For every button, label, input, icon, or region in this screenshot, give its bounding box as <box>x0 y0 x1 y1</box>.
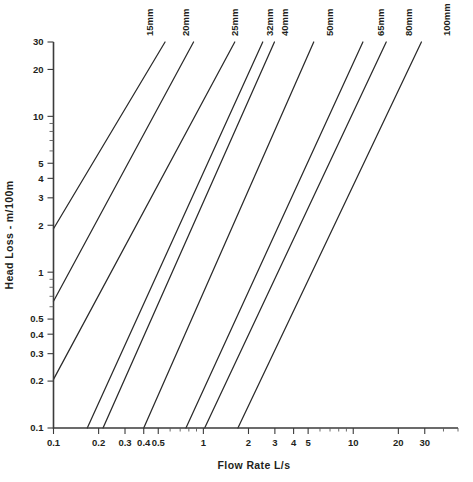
y-tick-label: 2 <box>38 220 43 231</box>
x-tick-label: 30 <box>419 437 430 448</box>
pipe-head-loss-chart: 0.10.20.30.40.512345102030 0.10.20.30.40… <box>0 0 473 482</box>
y-tick-label: 0.3 <box>30 348 43 359</box>
y-tick-label: 3 <box>38 192 43 203</box>
x-axis-ticks-group <box>54 428 459 434</box>
series-line-50mm <box>144 42 314 428</box>
x-tick-label: 0.4 <box>137 437 151 448</box>
x-tick-label: 5 <box>305 437 311 448</box>
y-tick-label: 0.1 <box>30 422 44 433</box>
y-tick-label: 0.5 <box>30 313 44 324</box>
x-tick-label: 10 <box>348 437 359 448</box>
series-lines-group <box>54 42 422 428</box>
y-axis-ticks-group <box>48 42 54 428</box>
x-tick-label: 0.3 <box>118 437 131 448</box>
x-tick-label: 20 <box>393 437 404 448</box>
x-tick-label: 0.1 <box>47 437 61 448</box>
y-axis-title: Head Loss - m/100m <box>3 181 15 290</box>
series-label-65mm: 65mm <box>375 9 386 36</box>
y-tick-label: 30 <box>33 36 44 47</box>
y-tick-label: 20 <box>33 64 44 75</box>
x-axis-tick-labels-group: 0.10.20.30.40.512345102030 <box>47 437 430 448</box>
series-label-25mm: 25mm <box>229 9 240 36</box>
series-label-40mm: 40mm <box>279 9 290 36</box>
series-line-65mm <box>186 42 363 428</box>
x-axis-title: Flow Rate L/s <box>218 459 291 471</box>
x-tick-label: 0.5 <box>152 437 166 448</box>
y-tick-label: 10 <box>33 111 44 122</box>
series-label-100mm: 100mm <box>441 3 452 36</box>
y-tick-label: 4 <box>38 173 44 184</box>
series-line-20mm <box>54 42 194 301</box>
series-label-15mm: 15mm <box>144 9 155 36</box>
y-tick-label: 0.4 <box>30 329 44 340</box>
y-tick-label: 5 <box>38 158 44 169</box>
y-tick-label: 0.2 <box>30 375 43 386</box>
series-label-80mm: 80mm <box>403 9 414 36</box>
x-tick-label: 3 <box>272 437 277 448</box>
x-tick-label: 1 <box>201 437 207 448</box>
series-label-50mm: 50mm <box>324 9 335 36</box>
series-label-20mm: 20mm <box>180 9 191 36</box>
series-line-15mm <box>54 42 166 229</box>
series-line-32mm <box>87 42 262 428</box>
x-tick-label: 4 <box>291 437 297 448</box>
series-line-80mm <box>205 42 387 428</box>
y-axis-tick-labels-group: 0.10.20.30.40.512345102030 <box>30 36 44 433</box>
x-tick-label: 2 <box>246 437 251 448</box>
series-line-25mm <box>54 42 235 379</box>
chart-svg: 0.10.20.30.40.512345102030 0.10.20.30.40… <box>0 0 473 482</box>
x-tick-label: 0.2 <box>92 437 105 448</box>
series-label-32mm: 32mm <box>264 9 275 36</box>
series-line-40mm <box>103 42 274 428</box>
series-line-100mm <box>238 42 422 428</box>
series-labels-group: 15mm20mm25mm32mm40mm50mm65mm80mm100mm <box>144 3 452 36</box>
y-tick-label: 1 <box>38 267 44 278</box>
